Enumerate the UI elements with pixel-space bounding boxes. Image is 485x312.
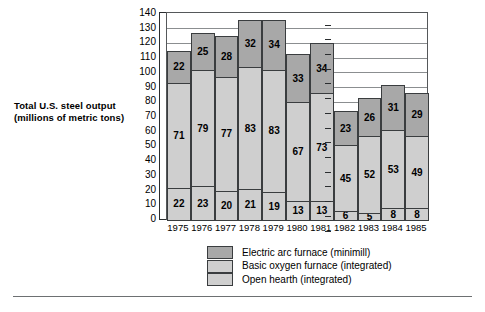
caption-line-1: Total U.S. steel output (14, 100, 146, 112)
plot-area: 2271222379252077282183321983341367331373… (166, 12, 428, 220)
y-axis-label-50: 50 (130, 140, 156, 150)
y-axis-tick-rail (159, 12, 166, 220)
legend-swatch-electric (207, 246, 233, 259)
bar-1983: 55226 (358, 98, 382, 221)
segment-value: 25 (197, 47, 208, 57)
y-axis-label-10: 10 (130, 199, 156, 209)
y-axis-label-40: 40 (130, 155, 156, 165)
segment-value: 8 (390, 210, 396, 220)
bar-segment-1977-2: 28 (215, 36, 239, 78)
y-axis-label-80: 80 (130, 96, 156, 106)
y-tick-20 (325, 201, 331, 202)
y-axis-label-120: 120 (130, 37, 156, 47)
segment-value: 28 (221, 52, 232, 62)
bar-segment-1978-1: 83 (238, 67, 262, 190)
x-axis-label-1975: 1975 (166, 222, 190, 234)
segment-value: 20 (221, 201, 232, 211)
legend-swatch-openhearth (207, 273, 233, 286)
bar-segment-1983-0: 5 (358, 213, 382, 221)
x-axis-label-1976: 1976 (190, 222, 214, 234)
bar-segment-1982-0: 6 (334, 211, 358, 221)
bar-segment-1984-1: 53 (381, 130, 405, 209)
segment-value: 49 (412, 168, 423, 178)
bar-segment-1978-0: 21 (238, 189, 262, 221)
bar-1977: 207728 (215, 36, 239, 221)
segment-value: 73 (316, 143, 327, 153)
bar-segment-1982-2: 23 (334, 111, 358, 146)
y-axis-label-0: 0 (130, 214, 156, 224)
y-tick-50 (325, 157, 331, 158)
bar-segment-1979-0: 19 (262, 192, 286, 221)
bar-1979: 198334 (262, 20, 286, 221)
segment-value: 22 (173, 62, 184, 72)
segment-value: 31 (388, 103, 399, 113)
bar-segment-1975-1: 71 (167, 83, 191, 188)
bar-segment-1976-2: 25 (191, 33, 215, 71)
bar-segment-1983-1: 52 (358, 136, 382, 214)
x-axis-label-1979: 1979 (261, 222, 285, 234)
segment-value: 13 (292, 206, 303, 216)
y-tick-80 (325, 113, 331, 114)
segment-value: 6 (343, 211, 349, 221)
legend-label-openhearth: Open hearth (integrated) (242, 274, 352, 286)
footer-divider (13, 296, 472, 297)
y-tick-30 (325, 186, 331, 187)
plot-frame: 2271222379252077282183321983341367331373… (166, 12, 428, 220)
x-axis-label-1977: 1977 (214, 222, 238, 234)
segment-value: 23 (340, 124, 351, 134)
x-axis-label-1982: 1982 (333, 222, 357, 234)
segment-value: 53 (388, 165, 399, 175)
y-tick-110 (325, 69, 331, 70)
bar-segment-1984-0: 8 (381, 208, 405, 221)
bar-segment-1979-2: 34 (262, 20, 286, 71)
legend-swatch-basic (207, 260, 233, 273)
segment-value: 83 (269, 126, 280, 136)
x-axis-label-1984: 1984 (380, 222, 404, 234)
segment-value: 32 (245, 39, 256, 49)
y-tick-70 (325, 128, 331, 129)
bar-segment-1980-1: 67 (286, 102, 310, 202)
y-tick-60 (325, 142, 331, 143)
bar-1985: 84929 (405, 93, 429, 221)
bar-segment-1980-0: 13 (286, 201, 310, 221)
bar-segment-1975-0: 22 (167, 188, 191, 221)
x-axis-label-1985: 1985 (404, 222, 428, 234)
segment-value: 71 (173, 131, 184, 141)
segment-value: 29 (412, 110, 423, 120)
y-axis-label-30: 30 (130, 170, 156, 180)
y-axis-label-20: 20 (130, 185, 156, 195)
segment-value: 26 (364, 113, 375, 123)
y-axis-label-140: 140 (130, 8, 156, 18)
y-tick-90 (325, 98, 331, 99)
x-axis-label-1978: 1978 (237, 222, 261, 234)
bar-1978: 218332 (238, 20, 262, 221)
x-axis-label-1983: 1983 (357, 222, 381, 234)
y-axis-label-70: 70 (130, 111, 156, 121)
chart-figure: Total U.S. steel output (millions of met… (0, 0, 485, 312)
legend-item-basic: Basic oxygen furnace (integrated) (207, 260, 437, 274)
bar-segment-1983-2: 26 (358, 98, 382, 137)
bar-1980: 136733 (286, 54, 310, 221)
legend-label-electric: Electric arc furnace (minimill) (242, 247, 370, 259)
y-tick-40 (325, 172, 331, 173)
bar-segment-1985-1: 49 (405, 136, 429, 209)
bar-segment-1980-2: 33 (286, 54, 310, 104)
segment-value: 83 (245, 124, 256, 134)
caption-line-2: (millions of metric tons) (14, 112, 146, 124)
y-axis-label-60: 60 (130, 126, 156, 136)
y-tick-100 (325, 83, 331, 84)
legend-item-electric: Electric arc furnace (minimill) (207, 246, 437, 260)
segment-value: 33 (292, 74, 303, 84)
segment-value: 8 (414, 210, 420, 220)
bar-segment-1977-1: 77 (215, 77, 239, 191)
bar-segment-1985-0: 8 (405, 208, 429, 221)
bar-1982: 64523 (334, 111, 358, 221)
bar-1975: 227122 (167, 51, 191, 221)
x-axis-labels: 1975197619771978197919801981198219831984… (166, 222, 428, 236)
bar-segment-1976-0: 23 (191, 186, 215, 221)
bar-segment-1976-1: 79 (191, 70, 215, 187)
segment-value: 67 (292, 147, 303, 157)
bar-segment-1984-2: 31 (381, 85, 405, 132)
segment-value: 13 (316, 206, 327, 216)
bar-1976: 237925 (191, 33, 215, 221)
